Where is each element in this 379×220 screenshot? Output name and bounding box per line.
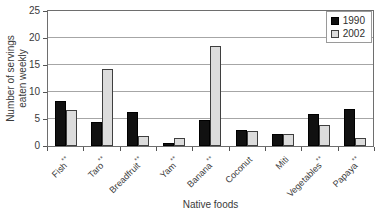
bar-group-fish xyxy=(48,11,84,146)
y-tick-label-10: 10 xyxy=(14,86,40,97)
bar-2002-coconut xyxy=(247,131,258,146)
bar-2002-banana xyxy=(210,46,221,146)
legend: 1990 2002 xyxy=(326,11,372,43)
y-axis-title: Number of servings eaten weekly xyxy=(0,10,32,147)
bar-2002-vegetables xyxy=(319,125,330,146)
legend-label-1990: 1990 xyxy=(343,15,365,26)
category-label-papaya: Papaya** xyxy=(330,155,364,189)
bar-2002-breadfruit xyxy=(138,136,149,146)
category-label-fish: Fish** xyxy=(49,155,74,180)
x-tick-mark-4 xyxy=(192,147,193,151)
bar-2002-fish xyxy=(66,110,77,146)
bar-1990-banana xyxy=(199,120,210,146)
y-tick-mark-25 xyxy=(43,11,47,12)
bar-2002-taro xyxy=(102,69,113,146)
y-tick-label-5: 5 xyxy=(14,113,40,124)
y-tick-label-15: 15 xyxy=(14,59,40,70)
bar-group-breadfruit xyxy=(120,11,156,146)
category-label-taro: Taro** xyxy=(85,155,110,180)
y-tick-label-25: 25 xyxy=(14,5,40,16)
legend-swatch-1990 xyxy=(331,17,339,25)
y-tick-mark-20 xyxy=(43,38,47,39)
x-tick-mark-5 xyxy=(229,147,230,151)
category-label-breadfruit: Breadfruit** xyxy=(106,155,146,195)
bar-2002-papaya xyxy=(355,138,366,146)
bar-1990-taro xyxy=(91,122,102,146)
x-tick-mark-8 xyxy=(338,147,339,151)
x-tick-mark-1 xyxy=(83,147,84,151)
x-tick-mark-6 xyxy=(265,147,266,151)
legend-swatch-2002 xyxy=(331,30,339,38)
bar-1990-coconut xyxy=(236,130,247,146)
x-tick-mark-0 xyxy=(47,147,48,151)
x-axis-title: Native foods xyxy=(47,199,374,210)
category-label-banana: Banana** xyxy=(184,155,219,190)
category-label-miti: Miti xyxy=(274,154,291,171)
legend-item-1990: 1990 xyxy=(331,14,365,27)
bars-layer xyxy=(48,11,373,146)
bar-group-miti xyxy=(265,11,301,146)
bar-chart: Number of servings eaten weekly 05101520… xyxy=(0,0,379,220)
legend-item-2002: 2002 xyxy=(331,27,365,40)
bar-2002-miti xyxy=(283,134,294,146)
y-tick-mark-15 xyxy=(43,65,47,66)
bar-1990-vegetables xyxy=(308,114,319,146)
bar-group-banana xyxy=(192,11,228,146)
y-tick-mark-5 xyxy=(43,119,47,120)
bar-1990-breadfruit xyxy=(127,112,138,146)
category-label-coconut: Coconut xyxy=(224,154,255,185)
x-tick-mark-9 xyxy=(374,147,375,151)
category-label-yam: Yam** xyxy=(157,155,182,180)
bar-group-coconut xyxy=(229,11,265,146)
bar-1990-yam xyxy=(163,143,174,146)
bar-group-taro xyxy=(84,11,120,146)
x-tick-mark-2 xyxy=(120,147,121,151)
bar-2002-yam xyxy=(174,138,185,146)
x-tick-mark-3 xyxy=(156,147,157,151)
y-tick-label-0: 0 xyxy=(14,140,40,151)
y-axis-title-line1: Number of servings xyxy=(5,35,17,122)
bar-1990-papaya xyxy=(344,109,355,146)
y-tick-mark-10 xyxy=(43,92,47,93)
x-tick-mark-7 xyxy=(301,147,302,151)
bar-group-yam xyxy=(156,11,192,146)
legend-label-2002: 2002 xyxy=(343,28,365,39)
y-tick-label-20: 20 xyxy=(14,32,40,43)
bar-1990-fish xyxy=(55,101,66,146)
y-axis-title-line2: eaten weekly xyxy=(16,35,28,122)
bar-1990-miti xyxy=(272,134,283,146)
